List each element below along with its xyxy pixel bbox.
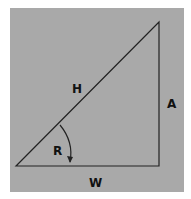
label-angle: R <box>53 144 62 158</box>
label-horizontal-side: W <box>89 176 102 190</box>
label-vertical-side: A <box>167 97 177 111</box>
triangle-diagram: H A W R <box>0 0 191 199</box>
arrow-head-icon <box>67 156 73 163</box>
label-hypotenuse: H <box>72 82 82 96</box>
right-triangle <box>16 22 159 166</box>
